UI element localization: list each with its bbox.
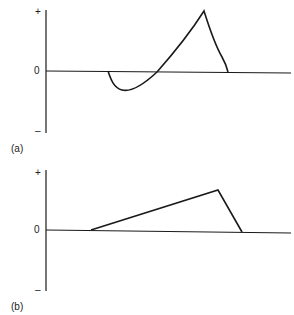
panel-a-zero-line [46,71,291,73]
panel-a [46,10,291,133]
panel-b-waveform [91,190,242,232]
panel-b-zero-tick: 0 [34,225,40,235]
panel-b [46,170,291,291]
diagram-canvas [0,0,294,315]
panel-b-minus-tick: – [35,285,41,295]
panel-b-plus-tick: + [35,168,41,178]
panel-a-zero-tick: 0 [34,66,40,76]
panel-a-label: (a) [11,144,23,154]
panel-b-zero-line [46,230,291,233]
panel-a-waveform [108,11,228,90]
panel-b-label: (b) [11,302,23,312]
panel-a-minus-tick: – [35,126,41,136]
panel-a-plus-tick: + [35,7,41,17]
